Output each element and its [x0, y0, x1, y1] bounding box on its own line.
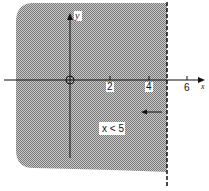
- y-axis-label: y: [74, 10, 80, 21]
- inequality-diagram: y 2 4 6 x x < 5: [0, 0, 209, 191]
- x-axis-label: x: [200, 82, 205, 91]
- shaded-region: [16, 3, 167, 172]
- tick-label-4: 4: [146, 81, 152, 92]
- inequality-label: x < 5: [102, 123, 124, 134]
- tick-label-2: 2: [107, 81, 113, 92]
- tick-label-6: 6: [184, 82, 190, 93]
